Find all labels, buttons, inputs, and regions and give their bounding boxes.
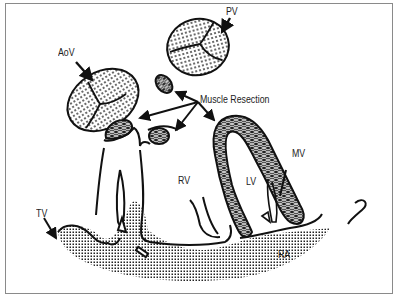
resection-piece-top [152,72,176,96]
aov-pointer [76,62,92,80]
rv-septal-band-2 [203,197,218,234]
label-pv: PV [226,6,238,17]
resection-arrow-left [140,102,198,118]
label-rv: RV [178,175,190,186]
resection-arrow-top [176,92,198,102]
left-ventricle-wall [214,116,304,237]
label-lv: LV [246,176,256,187]
curve-mark [348,200,366,224]
pv-pointer [222,18,230,32]
label-mv: MV [292,148,305,159]
septum-wall-left [96,148,104,215]
label-aov: AoV [58,47,75,58]
septum-wall-inner [117,170,124,225]
resection-piece-mid [149,128,169,144]
label-muscle-resection: Muscle Resection [200,94,269,105]
label-ra: RA [278,249,290,260]
tv-pointer [44,218,56,238]
label-tv: TV [36,208,47,219]
pulmonary-valve [161,12,235,82]
mitral-leaflet [262,212,270,222]
heart-diagram [0,0,398,299]
